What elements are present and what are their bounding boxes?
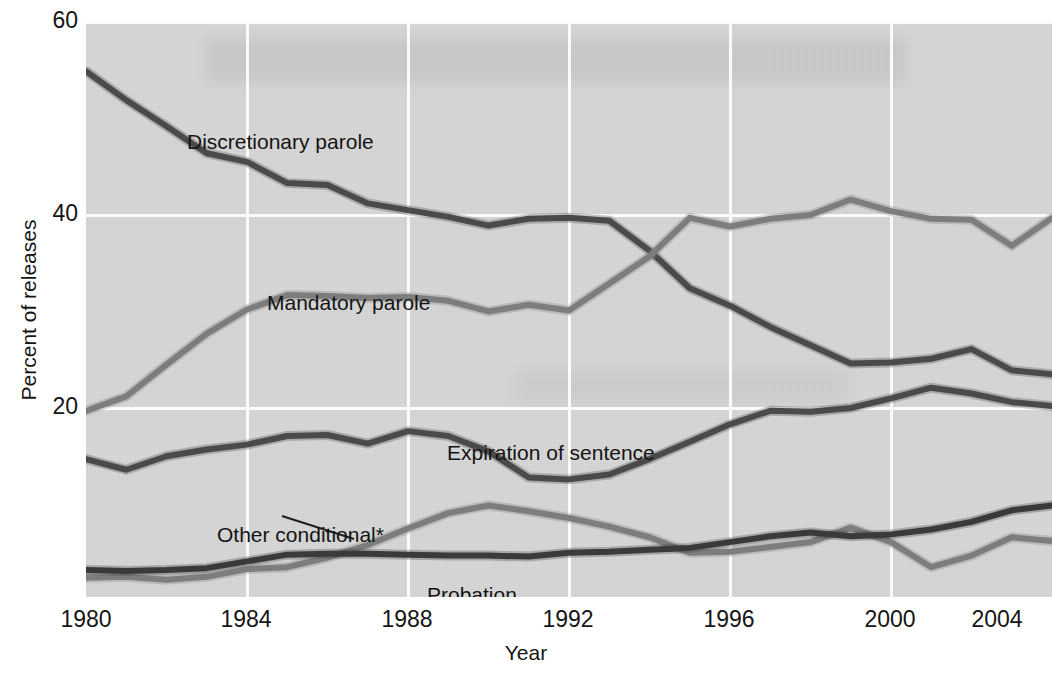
x-tick-1996: 1996 (674, 608, 784, 631)
x-tick-1984: 1984 (191, 608, 301, 631)
series-line-expiration-of-sentence (86, 388, 1052, 480)
series-label-expiration-of-sentence: Expiration of sentence (447, 442, 655, 463)
series-label-discretionary-parole: Discretionary parole (187, 131, 374, 152)
x-tick-2004: 2004 (942, 608, 1052, 631)
series-label-other-conditional: Other conditional* (217, 524, 384, 545)
x-tick-1980: 1980 (31, 608, 141, 631)
chart-figure: Discretionary parole Mandatory parole Ex… (0, 0, 1052, 684)
plot-area: Discretionary parole Mandatory parole Ex… (86, 21, 1052, 597)
x-tick-1992: 1992 (513, 608, 623, 631)
x-tick-2000: 2000 (835, 608, 945, 631)
x-axis-title: Year (0, 641, 1052, 665)
series-label-mandatory-parole: Mandatory parole (267, 292, 430, 313)
y-axis-title: Percent of releases (17, 170, 41, 450)
series-label-probation: Probation (427, 584, 517, 597)
y-tick-60: 60 (8, 9, 78, 32)
x-tick-1988: 1988 (352, 608, 462, 631)
series-lines (86, 21, 1052, 597)
